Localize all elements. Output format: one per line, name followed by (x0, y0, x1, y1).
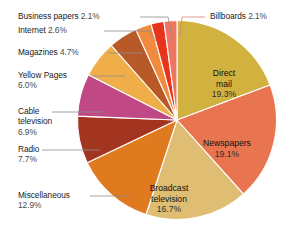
label-internet-name: Internet (18, 25, 48, 35)
label-broadcast-television-name-line2: television (136, 194, 202, 205)
label-magazines: Magazines 4.7% (18, 47, 79, 57)
label-radio-pct: 7.7% (18, 154, 39, 164)
pie-chart-figure: Business papers 2.1% Internet 2.6% Magaz… (0, 0, 299, 240)
label-direct-mail-name-line1: Direct (196, 68, 252, 79)
label-miscellaneous: Miscellaneous 12.9% (18, 190, 70, 211)
label-broadcast-television-pct: 16.7% (136, 204, 202, 215)
label-miscellaneous-name: Miscellaneous (18, 190, 70, 200)
label-business-papers-name: Business papers (18, 11, 81, 21)
label-billboards: Billboards 2.1% (210, 11, 267, 21)
label-newspapers-pct: 19.1% (192, 149, 262, 160)
label-magazines-pct: 4.7% (60, 47, 79, 57)
label-cable-television-pct: 6.9% (18, 127, 52, 137)
label-miscellaneous-pct: 12.9% (18, 200, 70, 210)
label-yellow-pages-name: Yellow Pages (18, 70, 67, 80)
label-newspapers: Newspapers 19.1% (192, 138, 262, 159)
label-cable-television: Cable television 6.9% (18, 106, 52, 137)
label-broadcast-television-name-line1: Broadcast (136, 183, 202, 194)
label-business-papers-pct: 2.1% (81, 11, 100, 21)
label-cable-television-name-line1: Cable (18, 106, 52, 116)
label-direct-mail: Direct mail 19.3% (196, 68, 252, 100)
label-internet-pct: 2.6% (48, 25, 67, 35)
label-broadcast-television: Broadcast television 16.7% (136, 183, 202, 215)
label-billboards-pct: 2.1% (248, 11, 267, 21)
label-yellow-pages-pct: 6.0% (18, 80, 67, 90)
label-newspapers-name: Newspapers (192, 138, 262, 149)
label-yellow-pages: Yellow Pages 6.0% (18, 70, 67, 91)
label-cable-television-name-line2: television (18, 116, 52, 126)
label-internet: Internet 2.6% (18, 25, 67, 35)
label-radio: Radio 7.7% (18, 144, 39, 165)
label-business-papers: Business papers 2.1% (18, 11, 100, 21)
label-magazines-name: Magazines (18, 47, 60, 57)
label-direct-mail-pct: 19.3% (196, 89, 252, 100)
label-billboards-name: Billboards (210, 11, 248, 21)
label-direct-mail-name-line2: mail (196, 79, 252, 90)
label-radio-name: Radio (18, 144, 39, 154)
